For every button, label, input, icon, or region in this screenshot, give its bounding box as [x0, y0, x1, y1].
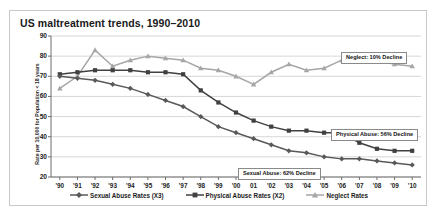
- data-point-marker: [93, 68, 97, 72]
- legend-marker-diamond-icon: [70, 191, 88, 199]
- data-point-marker: [128, 68, 132, 72]
- data-point-marker: [163, 70, 167, 74]
- data-point-marker: [234, 110, 238, 114]
- data-point-marker: [111, 68, 115, 72]
- legend-marker-square-icon: [186, 191, 204, 199]
- data-point-marker: [304, 129, 308, 133]
- chart-legend: Sexual Abuse Rates (X3)Physical Abuse Ra…: [10, 191, 428, 199]
- data-point-marker: [357, 141, 361, 145]
- legend-label: Physical Abuse Rates (X2): [206, 192, 285, 199]
- physical-abuse-annotation: Physical Abuse: 56% Decline: [331, 129, 418, 141]
- sexual-abuse-annotation: Sexual Abuse: 62% Decline: [238, 168, 321, 180]
- legend-label: Neglect Rates: [326, 192, 368, 199]
- data-point-marker: [216, 100, 220, 104]
- legend-item: Neglect Rates: [306, 191, 368, 199]
- data-point-marker: [192, 193, 197, 198]
- data-point-marker: [146, 70, 150, 74]
- data-point-marker: [269, 125, 273, 129]
- data-point-marker: [410, 149, 414, 153]
- neglect-annotation: Neglect: 10% Decline: [341, 52, 407, 64]
- data-point-marker: [287, 129, 291, 133]
- plot-area: [10, 11, 428, 207]
- data-point-marker: [75, 70, 79, 74]
- data-point-marker: [76, 192, 82, 198]
- chart-card: US maltreatment trends, 1990–2010 Rate p…: [9, 10, 427, 206]
- chart-figure: US maltreatment trends, 1990–2010 Rate p…: [0, 0, 436, 216]
- data-point-marker: [199, 88, 203, 92]
- legend-item: Sexual Abuse Rates (X3): [70, 191, 164, 199]
- legend-label: Sexual Abuse Rates (X3): [90, 192, 164, 199]
- data-point-marker: [181, 72, 185, 76]
- data-point-marker: [392, 149, 396, 153]
- data-point-marker: [252, 119, 256, 123]
- data-point-marker: [375, 147, 379, 151]
- legend-item: Physical Abuse Rates (X2): [186, 191, 285, 199]
- data-point-marker: [322, 131, 326, 135]
- legend-marker-triangle-icon: [306, 191, 324, 199]
